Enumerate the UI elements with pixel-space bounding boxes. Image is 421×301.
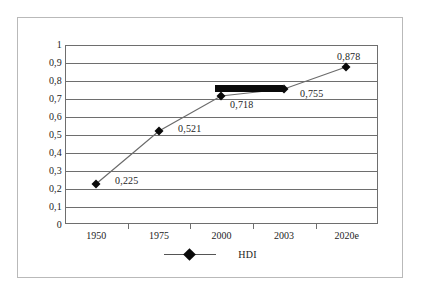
y-axis-tick-label: 0,2 (20, 184, 62, 194)
gridline (66, 117, 377, 118)
gridline (66, 63, 377, 64)
y-axis-tick-label: 0,1 (20, 202, 62, 212)
y-axis-tick-label: 0,8 (20, 76, 62, 86)
x-axis-tick (190, 224, 191, 229)
y-axis-tick-label: 0,4 (20, 148, 62, 158)
gridline (66, 99, 377, 100)
x-axis-tick-label: 1975 (128, 230, 191, 248)
x-axis-tick (253, 224, 254, 229)
y-axis-tick-label: 1 (20, 40, 62, 50)
figure-caption (30, 290, 410, 301)
gridline (66, 189, 377, 190)
diamond-marker-icon (183, 248, 196, 261)
y-axis-tick-label: 0,5 (20, 130, 62, 140)
gridline (66, 207, 377, 208)
legend-marker (164, 249, 216, 261)
data-point-label: 0,755 (300, 89, 324, 99)
x-axis-tick (128, 224, 129, 229)
data-point-label: 0,718 (230, 100, 254, 110)
x-axis-tick (316, 224, 317, 229)
x-axis-tick-label: 2000 (190, 230, 253, 248)
data-point-label: 0,878 (337, 52, 361, 62)
gridline (66, 81, 377, 82)
legend-label: HDI (238, 250, 257, 260)
data-point-label: 0,521 (178, 124, 202, 134)
y-axis-tick-label: 0,9 (20, 58, 62, 68)
y-axis-tick-label: 0,7 (20, 94, 62, 104)
x-axis-tick-label: 2003 (253, 230, 316, 248)
x-axis-tick-label: 2020e (315, 230, 378, 248)
x-axis-tick-label: 1950 (65, 230, 128, 248)
x-axis-labels: 1950 1975 2000 2003 2020e (65, 230, 378, 248)
gridline (66, 171, 377, 172)
y-axis-tick-label: 0,6 (20, 112, 62, 122)
gridline (66, 153, 377, 154)
data-point-label: 0,225 (115, 176, 139, 186)
y-axis-tick-label: 0 (20, 220, 62, 230)
gridline (66, 135, 377, 136)
plot-area (65, 45, 378, 224)
y-axis-tick-label: 0,3 (20, 166, 62, 176)
chart-legend: HDI (0, 249, 421, 261)
redaction-bar (215, 85, 283, 92)
